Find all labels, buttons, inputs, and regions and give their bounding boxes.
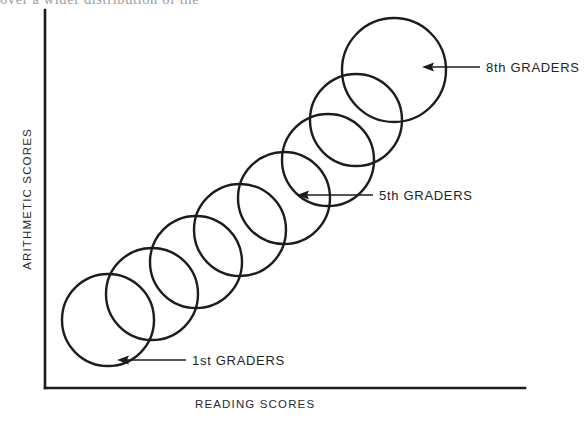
grade-circle-4 [194,184,286,276]
annotation-leader-1st [117,356,186,365]
grade-circle-3 [150,216,242,308]
grade-circle-1 [62,274,154,366]
grade-circle-5 [238,152,330,244]
annotation-leaders-group [117,63,480,365]
annotation-label-8th-graders: 8th GRADERS [486,60,580,75]
annotation-leader-8th [422,63,480,72]
grade-circle-6 [282,114,374,206]
grade-circle-7 [310,74,402,166]
annotation-label-1st-graders: 1st GRADERS [192,353,285,368]
x-axis-label: READING SCORES [195,398,315,410]
cut-off-caption-text: over a wider distribution of the [0,0,586,7]
figure-container: over a wider distribution of the ARITHME… [0,0,586,421]
y-axis-label: ARITHMETIC SCORES [21,99,33,299]
annotation-label-5th-graders: 5th GRADERS [379,188,473,203]
grade-circle-2 [106,248,198,340]
